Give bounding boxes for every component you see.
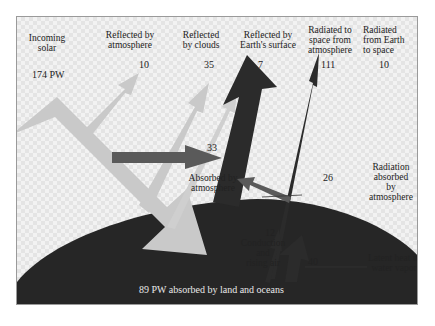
radiated-earth-value: 10 bbox=[379, 59, 389, 70]
reflected-atmosphere-label: Reflected by atmosphere bbox=[95, 30, 165, 50]
conduction-value: 12 bbox=[265, 227, 275, 238]
conduction-label: Conduction and rising air bbox=[235, 238, 291, 268]
absorbed-atmosphere-value: 33 bbox=[207, 142, 217, 153]
diagram-artwork bbox=[17, 17, 418, 305]
energy-budget-diagram: Incoming solar 174 PW Reflected by atmos… bbox=[16, 16, 418, 305]
reflected-clouds-label: Reflected by clouds bbox=[173, 30, 229, 50]
ground-absorbed-label: 89 PW absorbed by land and oceans bbox=[139, 284, 284, 295]
reflected-atmosphere-value: 10 bbox=[139, 59, 149, 70]
absorbed-atmosphere-label: Absorbed by atmosphere bbox=[182, 173, 244, 193]
incoming-solar-value: 174 PW bbox=[32, 69, 65, 80]
reflected-clouds-value: 35 bbox=[204, 59, 214, 70]
latent-heat-value: 40 bbox=[308, 256, 318, 267]
radiated-atmosphere-value: 111 bbox=[321, 59, 335, 70]
radiation-absorbed-label: Radiation absorbed by atmosphere bbox=[365, 162, 417, 202]
incoming-solar-label: Incoming solar bbox=[19, 33, 75, 53]
radiation-absorbed-value: 26 bbox=[323, 172, 333, 183]
reflected-surface-label: Reflected by Earth's surface bbox=[235, 30, 301, 50]
reflected-atmosphere-arrow bbox=[79, 73, 139, 141]
radiated-atmosphere-label: Radiated to space from atmosphere bbox=[302, 25, 358, 55]
latent-heat-label: Latent heat in water vapor bbox=[363, 253, 418, 273]
reflected-surface-value: 7 bbox=[258, 59, 263, 70]
reflected-clouds-arrow bbox=[139, 83, 209, 213]
radiated-earth-label: Radiated from Earth to space bbox=[363, 25, 413, 55]
